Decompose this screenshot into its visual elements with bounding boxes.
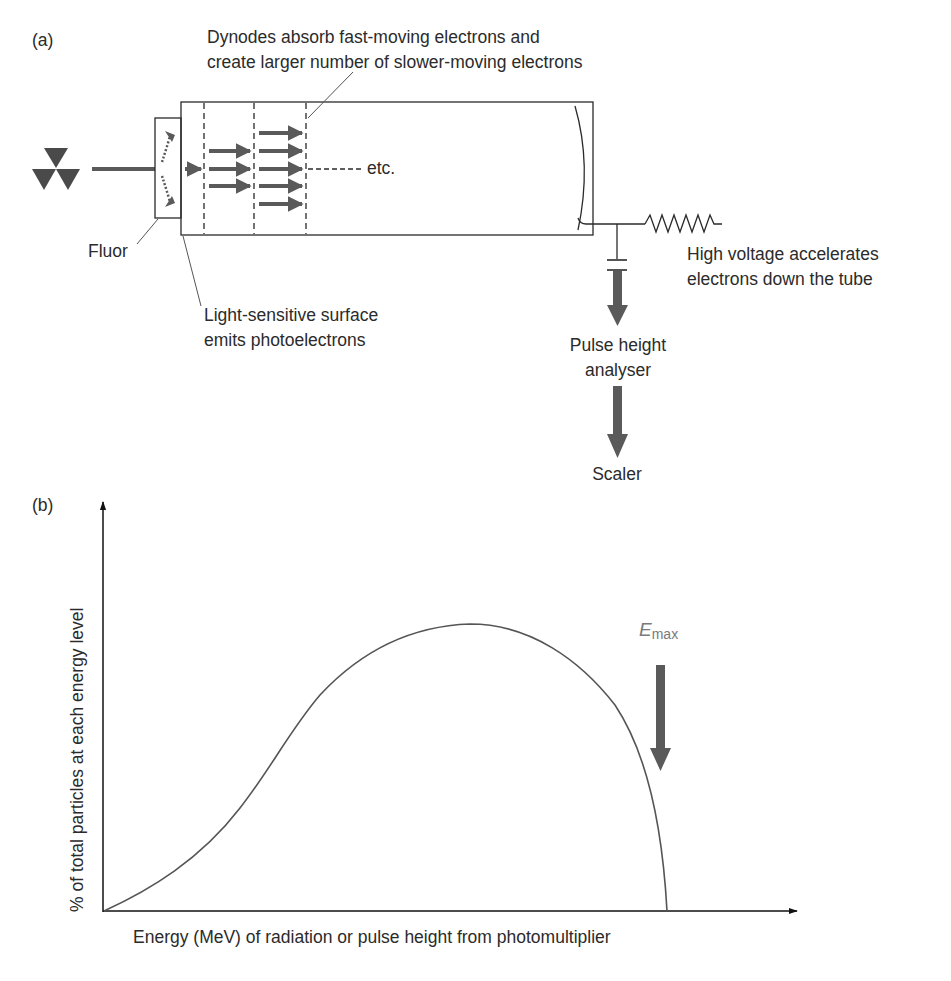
fluor-leader-line	[137, 219, 158, 244]
dynode-note-line2: create larger number of slower-moving el…	[207, 52, 582, 73]
dynode-leader-line	[308, 72, 353, 118]
fluor-label: Fluor	[88, 241, 128, 262]
pulse-height-analyser-label: Pulse height analyser	[557, 335, 679, 381]
photocathode-note: Light-sensitive surface emits photoelect…	[204, 305, 378, 351]
dynode-note-line1: Dynodes absorb fast-moving electrons and	[207, 27, 582, 48]
diagram-canvas	[0, 0, 951, 981]
capacitor-icon	[607, 260, 627, 270]
electron-arrows	[185, 133, 302, 204]
emax-label: Emax	[639, 619, 678, 642]
x-axis-label: Energy (MeV) of radiation or pulse heigh…	[133, 927, 611, 948]
high-voltage-note: High voltage accelerates electrons down …	[687, 244, 879, 290]
energy-spectrum-curve	[104, 624, 667, 911]
emax-arrow	[650, 665, 671, 771]
panel-b-label: (b)	[32, 495, 53, 516]
emax-subscript: max	[652, 626, 678, 642]
anode	[575, 106, 584, 230]
panel-a-label: (a)	[32, 30, 53, 51]
etc-label: etc.	[367, 158, 395, 179]
photocathode-note-line2: emits photoelectrons	[204, 330, 378, 351]
y-axis-label: % of total particles at each energy leve…	[67, 608, 88, 912]
dynode-note: Dynodes absorb fast-moving electrons and…	[207, 27, 582, 73]
high-voltage-note-line2: electrons down the tube	[687, 269, 879, 290]
emax-symbol: E	[639, 619, 652, 640]
scaler-label: Scaler	[567, 464, 667, 485]
pulse-height-analyser-line2: analyser	[557, 360, 679, 381]
signal-arrow-to-analyser	[607, 271, 628, 326]
resistor-icon	[645, 215, 722, 232]
photocathode-leader-line	[183, 236, 201, 306]
photocathode-note-line1: Light-sensitive surface	[204, 305, 378, 326]
high-voltage-note-line1: High voltage accelerates	[687, 244, 879, 265]
radiation-trefoil-icon	[32, 148, 80, 190]
pulse-height-analyser-line1: Pulse height	[557, 335, 679, 356]
signal-arrow-to-scaler	[607, 386, 628, 458]
